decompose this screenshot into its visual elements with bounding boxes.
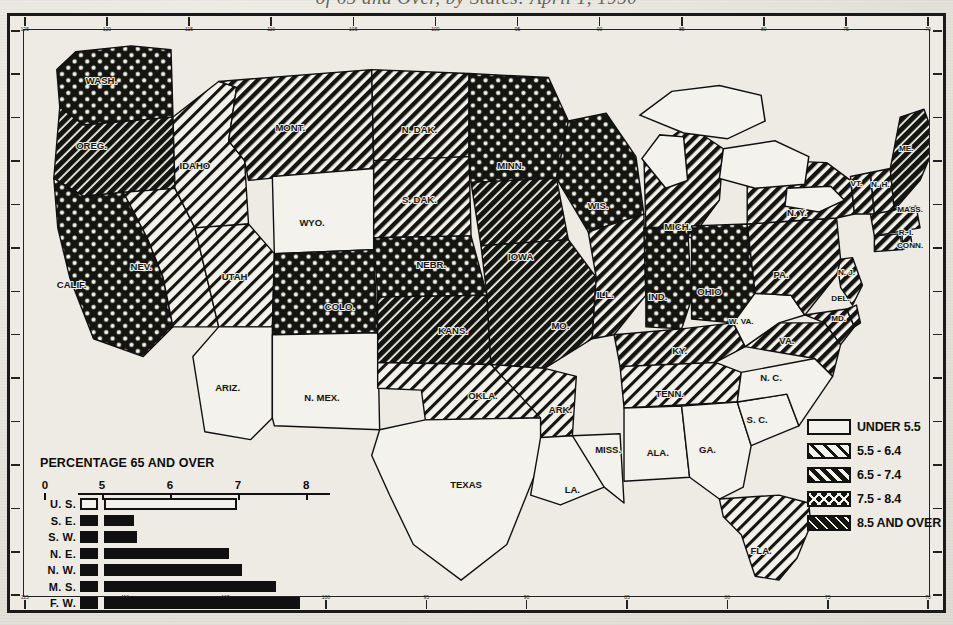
state-wis[interactable] <box>556 113 643 232</box>
state-ga[interactable] <box>682 402 752 499</box>
bar-segment <box>104 531 137 543</box>
state-colo[interactable] <box>272 250 377 335</box>
state-label: ALA. <box>647 447 669 458</box>
bar-track <box>80 546 330 563</box>
state-label: TEXAS <box>450 479 482 490</box>
state-label: OKLA. <box>468 390 498 401</box>
map-caption-cropped: of 65 and Over, by States: April 1, 1950 <box>0 0 953 14</box>
bar-track <box>80 496 330 513</box>
legend-row: 7.5 - 8.4 <box>807 488 940 509</box>
ruler-tick <box>11 160 20 162</box>
state-texas[interactable] <box>372 418 543 580</box>
ruler-tick <box>933 594 942 596</box>
state-label: UTAH <box>222 271 248 282</box>
bar-row: S. E. <box>40 513 330 530</box>
great-lake <box>719 141 808 188</box>
state-label: N. H. <box>871 181 890 190</box>
ruler-tick <box>933 73 942 75</box>
state-ala[interactable] <box>624 406 690 481</box>
ruler-tick: 125 <box>24 17 26 26</box>
ruler-tick <box>11 334 20 336</box>
state-label: KY. <box>672 345 687 356</box>
legend-swatch-blank <box>807 419 851 435</box>
state-label: S. C. <box>747 414 768 425</box>
bar-segment <box>104 597 300 609</box>
ruler-tick: 80 <box>727 600 729 609</box>
bar-row: N. E. <box>40 546 330 563</box>
state-label: MINN. <box>497 160 524 171</box>
state-label: ME. <box>899 144 913 153</box>
axis-tick-label: 8 <box>303 479 309 491</box>
state-label: ARK. <box>549 404 572 415</box>
ruler-tick: 75 <box>845 17 847 26</box>
axis-tick-label: 0 <box>42 479 48 491</box>
state-label: WYO. <box>299 217 324 228</box>
legend-row: UNDER 5.5 <box>807 416 940 437</box>
bar-track <box>80 562 330 579</box>
state-nmex[interactable] <box>272 333 379 430</box>
bar-segment <box>104 581 276 593</box>
legend-row: 6.5 - 7.4 <box>807 464 940 485</box>
state-wyo[interactable] <box>272 169 373 254</box>
legend-swatch-light-hatch <box>807 443 851 459</box>
state-label: NEBR. <box>416 259 446 270</box>
axis-line <box>78 493 330 495</box>
bar-row: F. W. <box>40 595 330 612</box>
legend-label: 6.5 - 7.4 <box>857 468 901 482</box>
ruler-tick <box>11 291 20 293</box>
ruler-tick <box>933 160 942 162</box>
bar-segment <box>104 564 242 576</box>
bar-origin-stub <box>80 548 98 560</box>
state-label: COLO. <box>325 301 355 312</box>
bar-row: S. W. <box>40 529 330 546</box>
bar-origin-stub <box>80 498 98 510</box>
state-label: GA. <box>699 444 716 455</box>
ruler-tick <box>933 334 942 336</box>
legend-swatch-cross-hatch <box>807 491 851 507</box>
state-ill[interactable] <box>588 214 646 339</box>
state-mo[interactable] <box>481 240 596 369</box>
state-fla[interactable] <box>719 495 810 580</box>
legend-label: UNDER 5.5 <box>857 420 921 434</box>
bar-origin-stub <box>80 531 98 543</box>
state-tenn[interactable] <box>620 362 741 408</box>
ruler-tick: 95 <box>426 600 428 609</box>
legend-label: 5.5 - 6.4 <box>857 444 901 458</box>
ruler-tick: 90 <box>599 17 601 26</box>
state-label: MO. <box>551 320 569 331</box>
state-label: IOWA <box>508 251 534 262</box>
state-me[interactable] <box>890 109 929 210</box>
bar-chart-panel: PERCENTAGE 65 AND OVER 05678 U. S.S. E.S… <box>40 456 330 621</box>
bar-row: U. S. <box>40 496 330 513</box>
state-kans[interactable] <box>378 295 491 364</box>
ruler-tick: 75 <box>827 600 829 609</box>
map-frame: 125120115110105100959085807570 115110105… <box>7 13 946 613</box>
state-label: WIS. <box>588 200 609 211</box>
state-label: NEV. <box>131 261 152 272</box>
legend-swatch-medium-hatch <box>807 467 851 483</box>
state-label: PA. <box>773 269 788 280</box>
ruler-tick: 110 <box>270 17 272 26</box>
state-ndak[interactable] <box>372 70 469 161</box>
state-label: S. DAK. <box>402 194 437 205</box>
ruler-tick: 115 <box>188 17 190 26</box>
state-iowa[interactable] <box>471 178 568 245</box>
ruler-tick: 70 <box>927 17 929 26</box>
state-label: CALIF. <box>57 279 87 290</box>
state-label: N. J. <box>838 268 855 277</box>
ruler-tick: 80 <box>763 17 765 26</box>
latitude-ruler-left <box>11 30 22 596</box>
state-label: N. DAK. <box>402 124 437 135</box>
ruler-tick: 85 <box>681 17 683 26</box>
ruler-tick: 105 <box>353 17 355 26</box>
state-label: ILL. <box>597 289 614 300</box>
state-label: IND. <box>648 291 667 302</box>
bar-track <box>80 513 330 530</box>
ruler-tick <box>11 594 20 596</box>
state-label: R. I. <box>899 228 914 237</box>
state-label: W. VA. <box>729 317 754 326</box>
ruler-tick: 70 <box>927 600 929 609</box>
bar-label: S. E. <box>40 515 80 527</box>
state-ind[interactable] <box>644 226 692 329</box>
bar-label: N. W. <box>40 564 80 576</box>
